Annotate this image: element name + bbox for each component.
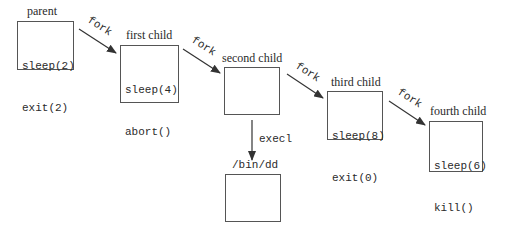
- fourth-child-process-box: sleep(6) kill(): [429, 121, 483, 172]
- bin-dd-process-box: [225, 174, 281, 222]
- third-child-code: sleep(8) exit(0): [332, 101, 385, 213]
- parent-code: sleep(2) exit(2): [22, 31, 75, 143]
- code-line: exit(2): [22, 101, 75, 115]
- first-child-title: first child: [126, 28, 172, 43]
- fourth-child-title: fourth child: [430, 104, 486, 119]
- second-child-title: second child: [222, 51, 282, 66]
- parent-process-box: sleep(2) exit(2): [17, 21, 74, 70]
- code-line: kill(): [434, 201, 487, 215]
- third-child-process-box: sleep(8) exit(0): [327, 91, 383, 140]
- code-line: sleep(2): [22, 59, 75, 73]
- code-line: exit(0): [332, 171, 385, 185]
- code-line: sleep(8): [332, 129, 385, 143]
- parent-title: parent: [27, 4, 57, 19]
- fourth-child-code: sleep(6) kill(): [434, 131, 487, 234]
- code-line: abort(): [125, 125, 178, 139]
- code-line: sleep(4): [125, 83, 178, 97]
- bin-dd-title: /bin/dd: [232, 159, 278, 171]
- first-child-code: sleep(4) abort(): [125, 55, 178, 167]
- code-line: sleep(6): [434, 159, 487, 173]
- third-child-title: third child: [331, 75, 381, 90]
- execl-label: execl: [259, 133, 292, 145]
- first-child-process-box: sleep(4) abort(): [120, 45, 179, 103]
- second-child-process-box: [224, 67, 280, 115]
